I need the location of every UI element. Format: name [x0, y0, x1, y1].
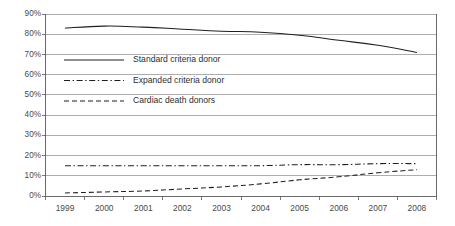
- x-tick-label: 2001: [134, 203, 153, 213]
- y-tick-label: 40%: [25, 110, 41, 119]
- y-tick-label: 80%: [25, 29, 41, 38]
- y-tick-label: 50%: [25, 90, 41, 99]
- x-tick-label: 2008: [408, 203, 427, 213]
- y-tick-label: 20%: [25, 151, 41, 160]
- chart-legend: Standard criteria donorExpanded criteria…: [64, 54, 224, 105]
- y-tick-label: 60%: [25, 70, 41, 79]
- series-line-2: [65, 170, 417, 193]
- x-tick-label: 2006: [329, 203, 348, 213]
- x-tick-label: 2003: [212, 203, 231, 213]
- y-tick-label: 90%: [25, 9, 41, 18]
- data-series-lines: [65, 26, 417, 193]
- gridlines: [46, 14, 437, 176]
- x-axis-tick-labels: 1999200020012002200320042005200620072008: [56, 203, 427, 213]
- series-line-0: [65, 26, 417, 52]
- x-tick-label: 2002: [173, 203, 192, 213]
- y-tick-label: 70%: [25, 50, 41, 59]
- series-line-1: [65, 164, 417, 166]
- chart-canvas: 0%10%20%30%40%50%60%70%80%90% 1999200020…: [0, 0, 455, 226]
- x-tick-label: 2007: [369, 203, 388, 213]
- x-tick-label: 1999: [56, 203, 75, 213]
- y-tick-label: 0%: [29, 191, 41, 200]
- x-tick-label: 2004: [251, 203, 270, 213]
- y-tick-label: 10%: [25, 171, 41, 180]
- line-chart: 0%10%20%30%40%50%60%70%80%90% 1999200020…: [0, 0, 455, 226]
- y-tick-label: 30%: [25, 130, 41, 139]
- legend-label-1: Expanded criteria donor: [133, 75, 224, 85]
- x-tick-label: 2005: [290, 203, 309, 213]
- y-axis-tick-labels: 0%10%20%30%40%50%60%70%80%90%: [25, 9, 46, 200]
- x-tick-label: 2000: [95, 203, 114, 213]
- legend-label-2: Cardiac death donors: [133, 95, 215, 105]
- legend-label-0: Standard criteria donor: [133, 54, 221, 64]
